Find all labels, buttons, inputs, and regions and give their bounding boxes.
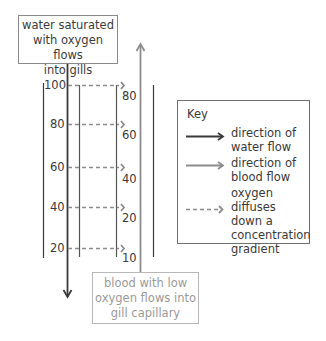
diffusion-arrows — [68, 82, 124, 252]
water-oxygen-value: 100 — [44, 78, 66, 92]
blood-oxygen-value: 80 — [122, 89, 137, 103]
blood-oxygen-value: 60 — [122, 128, 137, 142]
key-item-label: oxygen diffuses — [231, 186, 311, 214]
dashed-arrow-icon — [186, 206, 223, 213]
key-item-label: direction of — [231, 126, 296, 140]
blood-oxygen-value: 40 — [122, 172, 137, 186]
water-oxygen-value: 40 — [50, 200, 65, 214]
water-flow-arrow-icon — [64, 64, 72, 297]
water-oxygen-value: 80 — [50, 117, 65, 131]
water-inflow-label-box: water saturated with oxygen flows into g… — [18, 15, 118, 64]
blood-inflow-label-box: blood with low oxygen flows into gill ca… — [92, 272, 199, 324]
key-item-label: gradient — [231, 242, 311, 256]
water-label-line: water saturated — [19, 18, 117, 33]
blood-flow-arrow-icon — [137, 44, 145, 272]
key-item-water-flow: direction of water flow — [231, 126, 296, 154]
gray-arrow-icon — [186, 162, 223, 169]
water-oxygen-value: 60 — [50, 160, 65, 174]
blood-label-line: gill capillary — [93, 306, 198, 321]
blood-oxygen-value: 10 — [122, 251, 137, 265]
key-item-diffusion: oxygen diffuses down a concentration gra… — [231, 186, 311, 256]
key-item-label: direction of — [231, 156, 296, 170]
key-item-label: concentration — [231, 228, 311, 242]
water-oxygen-value: 20 — [50, 241, 65, 255]
blood-oxygen-value: 20 — [122, 211, 137, 225]
key-item-label: water flow — [231, 140, 296, 154]
blood-label-line: oxygen flows into — [93, 291, 198, 306]
blood-label-line: blood with low — [93, 276, 198, 291]
key-legend: Key direction of water flow direction of… — [177, 100, 310, 244]
key-item-label: blood flow — [231, 170, 296, 184]
dark-arrow-icon — [186, 133, 223, 140]
key-item-label: down a — [231, 214, 311, 228]
water-label-line: into gills — [19, 63, 117, 78]
key-item-blood-flow: direction of blood flow — [231, 156, 296, 184]
water-label-line: with oxygen flows — [19, 33, 117, 63]
